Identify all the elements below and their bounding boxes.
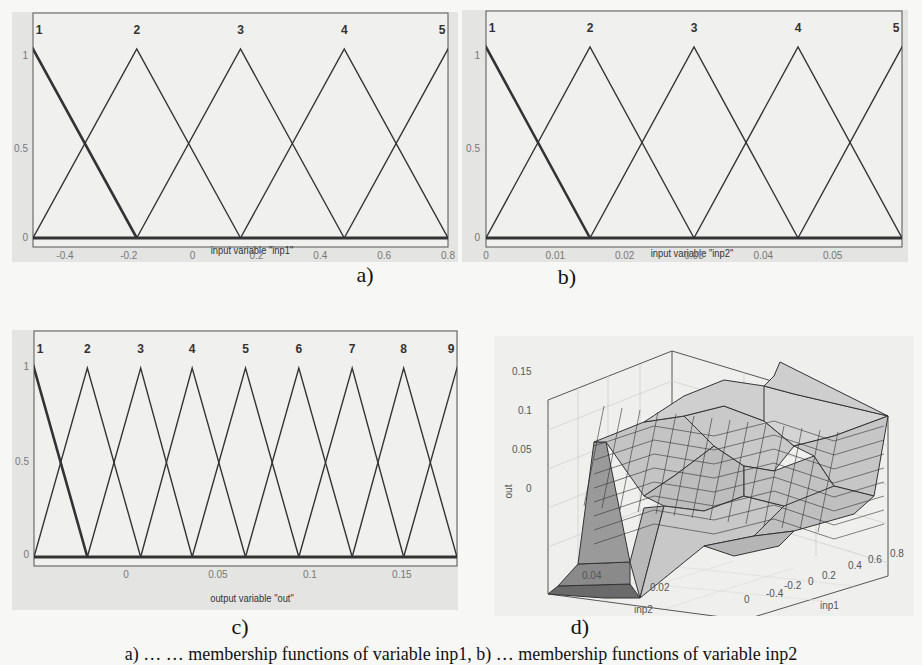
xtick: 0.01: [546, 250, 565, 261]
xtick: 0.1: [303, 569, 317, 580]
ytick: 1: [466, 50, 480, 61]
xtick: 0.6: [377, 250, 391, 261]
mf-label: 2: [587, 21, 594, 35]
ytick: -0.2: [784, 580, 801, 591]
xtick: 0.05: [208, 569, 227, 580]
y-axis-label: inp1: [820, 600, 839, 611]
mf-label: 5: [439, 23, 446, 37]
z-axis-label: out: [503, 485, 514, 499]
ztick: 0.05: [512, 444, 531, 455]
membership-plot-c: [12, 330, 458, 610]
ytick: 0.5: [13, 456, 29, 467]
mf-label: 4: [795, 21, 802, 35]
mf-label: 2: [84, 342, 91, 356]
caption-b: b): [558, 264, 576, 290]
mf-label: 4: [341, 23, 348, 37]
x-axis-label: output variable "out": [210, 592, 294, 604]
mf-label: 5: [242, 342, 249, 356]
ytick: -0.4: [766, 588, 783, 599]
chart-panel-c: 1 0.5 0 output variable "out" 1234567890…: [12, 330, 458, 610]
xtick: 0.4: [313, 250, 327, 261]
x-axis-label: inp2: [634, 604, 653, 615]
ztick: 0.1: [518, 405, 532, 416]
ytick: 0: [808, 576, 814, 587]
ztick: 0: [526, 483, 532, 494]
xtick: 0: [123, 569, 129, 580]
mf-label: 3: [137, 342, 144, 356]
caption-d: d): [571, 614, 589, 640]
mf-label: 1: [37, 342, 44, 356]
caption-c: c): [231, 614, 248, 640]
xtick: -0.2: [120, 250, 137, 261]
xtick: 0.03: [684, 250, 703, 261]
ztick: 0.15: [512, 366, 531, 377]
xtick: 0.8: [441, 250, 455, 261]
ytick: 0.6: [868, 554, 882, 565]
mf-label: 7: [349, 342, 356, 356]
xtick: 0: [483, 250, 489, 261]
ytick: 0.4: [848, 560, 862, 571]
xtick: 0.04: [754, 250, 773, 261]
ytick: 0.2: [822, 570, 836, 581]
caption-a: a): [356, 262, 373, 288]
ytick: 0: [15, 549, 29, 560]
xtick: 0.02: [615, 250, 634, 261]
mf-label: 5: [893, 21, 900, 35]
xtick: 0: [190, 250, 196, 261]
mf-label: 4: [189, 342, 196, 356]
ytick: 0: [14, 232, 28, 243]
xtick: -0.4: [56, 250, 73, 261]
figure-caption: a) … … membership functions of variable …: [0, 644, 922, 665]
xtick: 0.05: [823, 250, 842, 261]
chart-panel-a: 1 0.5 0 input variable "inp1" 12345-0.4-…: [12, 12, 458, 262]
chart-panel-d: out 0.15 0.1 0.05 0 0.04 0.02 0 inp2 -0.…: [494, 336, 914, 616]
mf-label: 8: [400, 342, 407, 356]
mf-label: 3: [237, 23, 244, 37]
xtick: 0.15: [392, 569, 411, 580]
ytick: 1: [15, 361, 29, 372]
ytick: 0.5: [12, 143, 28, 154]
xtick: 0.02: [650, 582, 669, 593]
xtick: 0: [744, 594, 750, 605]
xtick: 0.2: [250, 250, 264, 261]
chart-panel-b: 1 0.5 0 input variable "inp2" 1234500.01…: [462, 10, 908, 262]
mf-label: 9: [448, 342, 455, 356]
membership-plot-b: [462, 10, 908, 262]
ytick: 0: [466, 232, 480, 243]
mf-label: 3: [691, 21, 698, 35]
ytick: 1: [14, 50, 28, 61]
ytick: 0.8: [890, 548, 904, 559]
xtick: 0.04: [582, 570, 601, 581]
membership-plot-a: [12, 12, 458, 262]
ytick: 0.5: [464, 143, 480, 154]
surface-plot-d: [494, 336, 914, 616]
mf-label: 1: [489, 21, 496, 35]
mf-label: 2: [133, 23, 140, 37]
mf-label: 1: [36, 23, 43, 37]
mf-label: 6: [295, 342, 302, 356]
